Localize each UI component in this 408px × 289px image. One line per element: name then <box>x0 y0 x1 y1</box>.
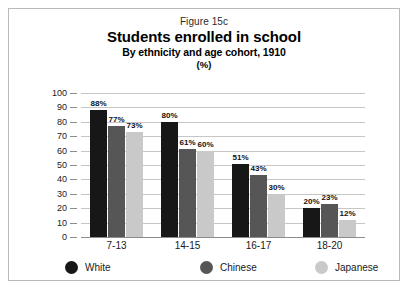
y-tick-mark <box>70 93 77 94</box>
bar-chinese-18-20 <box>321 204 338 237</box>
x-axis: 7-1314-1516-1718-20 <box>81 240 365 254</box>
bars-layer: 88%77%73%80%61%60%51%43%30%20%23%12% <box>81 93 365 237</box>
bar-value-label: 60% <box>197 141 213 149</box>
y-tick-label: 20 <box>57 204 67 213</box>
legend-item-japanese[interactable]: Japanese <box>315 261 378 274</box>
x-tick-label-16-17: 16-17 <box>246 240 272 252</box>
y-tick-label: 80 <box>57 117 67 126</box>
bar-chinese-16-17 <box>250 175 267 237</box>
legend-item-white[interactable]: White <box>65 261 111 274</box>
y-tick-mark <box>70 179 77 180</box>
x-tick-label-14-15: 14-15 <box>175 240 201 252</box>
figure-frame: Figure 15c Students enrolled in school B… <box>8 8 400 281</box>
x-tick-label-18-20: 18-20 <box>317 240 343 252</box>
bar-value-label: 73% <box>126 122 142 130</box>
legend-label: Japanese <box>335 261 378 274</box>
y-tick-label: 60 <box>57 146 67 155</box>
y-tick-mark <box>70 122 77 123</box>
x-tick-label-7-13: 7-13 <box>106 240 126 252</box>
bar-group: 20%23%12% <box>300 93 359 237</box>
bar-japanese-18-20 <box>339 220 356 237</box>
legend-label: Chinese <box>220 261 257 274</box>
bar-group: 80%61%60% <box>158 93 217 237</box>
bar-value-label: 43% <box>250 165 266 173</box>
bar-value-label: 30% <box>268 184 284 192</box>
bar-value-label: 61% <box>179 139 195 147</box>
y-axis: 1009080706050403020100 <box>29 93 77 237</box>
legend-swatch-circle-icon <box>315 261 328 274</box>
legend-swatch-circle-icon <box>65 261 78 274</box>
bar-chinese-7-13 <box>108 126 125 237</box>
bar-white-7-13 <box>90 110 107 237</box>
y-tick-label: 30 <box>57 189 67 198</box>
y-tick-mark <box>70 136 77 137</box>
gridline <box>81 237 365 238</box>
bar-chinese-14-15 <box>179 149 196 237</box>
bar-value-label: 77% <box>108 116 124 124</box>
title-block: Figure 15c Students enrolled in school B… <box>9 15 399 71</box>
bar-value-label: 88% <box>90 100 106 108</box>
legend-item-chinese[interactable]: Chinese <box>200 261 257 274</box>
legend-swatch-circle-icon <box>200 261 213 274</box>
figure-number: Figure 15c <box>9 15 399 28</box>
bar-value-label: 12% <box>339 210 355 218</box>
bar-white-16-17 <box>232 164 249 237</box>
bar-japanese-14-15 <box>197 151 214 237</box>
y-tick-label: 40 <box>57 175 67 184</box>
bar-white-18-20 <box>303 208 320 237</box>
y-tick-label: 0 <box>62 233 67 242</box>
figure-units: (%) <box>9 59 399 71</box>
y-tick-label: 100 <box>52 89 67 98</box>
bar-group: 88%77%73% <box>87 93 146 237</box>
y-tick-mark <box>70 237 77 238</box>
bar-white-14-15 <box>161 122 178 237</box>
chart-legend: WhiteChineseJapanese <box>65 261 365 281</box>
bar-value-label: 20% <box>303 198 319 206</box>
figure-title: Students enrolled in school <box>9 28 399 46</box>
y-tick-mark <box>70 165 77 166</box>
y-tick-label: 50 <box>57 161 67 170</box>
y-tick-label: 70 <box>57 132 67 141</box>
bar-value-label: 23% <box>321 194 337 202</box>
bar-japanese-16-17 <box>268 194 285 237</box>
bar-group: 51%43%30% <box>229 93 288 237</box>
y-tick-mark <box>70 223 77 224</box>
bar-value-label: 51% <box>232 154 248 162</box>
y-tick-mark <box>70 107 77 108</box>
y-tick-mark <box>70 208 77 209</box>
legend-label: White <box>85 261 111 274</box>
y-tick-label: 10 <box>57 218 67 227</box>
bar-value-label: 80% <box>161 112 177 120</box>
y-tick-mark <box>70 151 77 152</box>
y-tick-label: 90 <box>57 103 67 112</box>
y-tick-mark <box>70 194 77 195</box>
bar-japanese-7-13 <box>126 132 143 237</box>
figure-subtitle: By ethnicity and age cohort, 1910 <box>9 46 399 59</box>
